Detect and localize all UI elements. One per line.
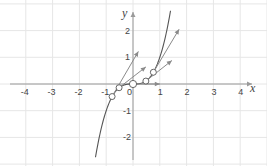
- chart: -4-3-2-101234-2-112 x y: [0, 0, 267, 166]
- x-tick-label: 3: [211, 87, 216, 97]
- x-axis-label: x: [249, 81, 256, 95]
- curve-point-marker: [129, 80, 136, 87]
- curve-point-marker: [150, 69, 156, 75]
- x-tick-label: 1: [158, 87, 163, 97]
- curve-point-marker: [143, 78, 149, 84]
- y-tick-label: 2: [125, 26, 130, 36]
- tangent-vector: [153, 29, 179, 72]
- x-tick-label: 4: [238, 87, 243, 97]
- arrowhead-icon: [155, 82, 160, 87]
- x-tick-label: -4: [21, 87, 29, 97]
- y-axis-arrow-icon: [131, 12, 136, 17]
- curve-point-marker: [116, 85, 122, 91]
- y-tick-label: -1: [123, 106, 131, 116]
- y-tick-label: -2: [123, 132, 131, 142]
- curve-point-marker: [109, 94, 115, 100]
- x-tick-label: -2: [74, 87, 82, 97]
- x-tick-label: -1: [101, 87, 109, 97]
- x-tick-label: -3: [48, 87, 56, 97]
- y-axis-label: y: [121, 6, 128, 20]
- y-tick-label: 1: [125, 52, 130, 62]
- x-tick-label: 2: [185, 87, 190, 97]
- x-tick-label: 0: [127, 87, 132, 97]
